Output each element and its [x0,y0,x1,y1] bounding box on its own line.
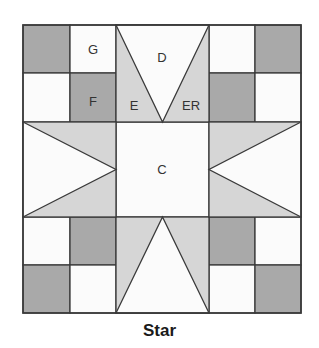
corner-tr-dark-square [255,25,301,73]
corner-tr-light-square [209,25,255,73]
label-c: C [157,162,166,177]
corner-tr-light-square-2 [255,73,301,122]
label-f: F [89,94,97,109]
label-g: G [88,42,98,57]
label-d: D [157,50,166,65]
corner-bl-light-square-2 [70,265,116,313]
label-e: E [130,98,139,113]
corner-br-light-square [255,217,301,265]
corner-bl-dark-square [70,217,116,265]
corner-bl-dark-square-2 [23,265,70,313]
star-quilt-block-diagram: G D F E ER C [0,0,319,348]
diagram-caption: Star [0,321,319,341]
corner-bl-light-square [23,217,70,265]
label-er: ER [182,98,200,113]
corner-tl-dark-square [23,25,70,73]
corner-tl-light-square [23,73,70,122]
corner-tr-dark-square-2 [209,73,255,122]
corner-br-light-square-2 [209,265,255,313]
corner-br-dark-square [209,217,255,265]
corner-br-dark-square-2 [255,265,301,313]
